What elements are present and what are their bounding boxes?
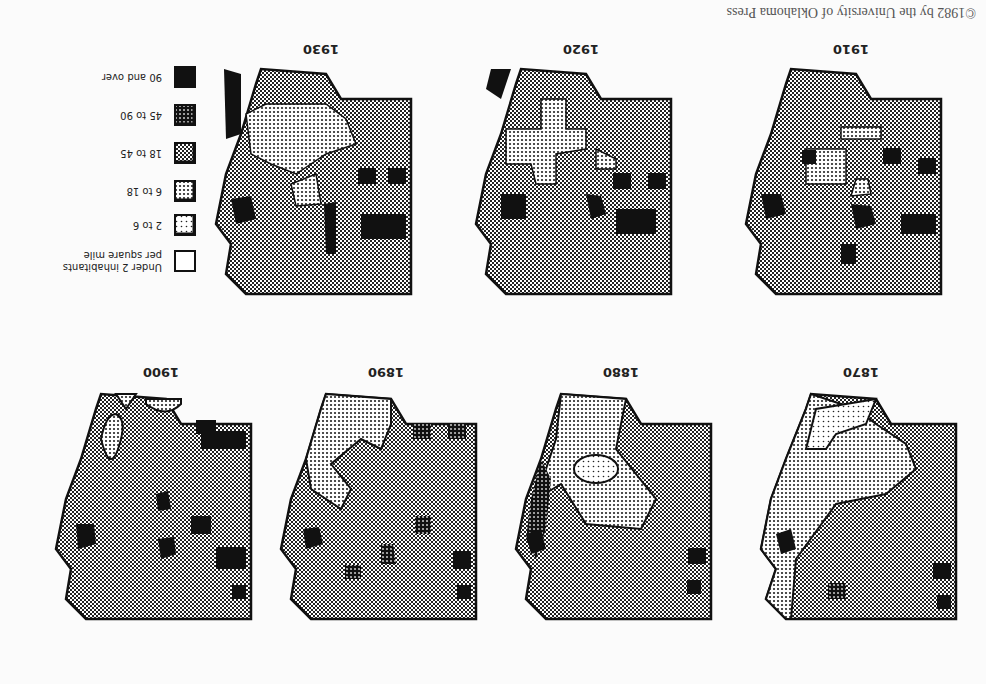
copyright-credit: ©1982 by the University of Oklahoma Pres… bbox=[727, 4, 976, 20]
map-year-label: 1870 bbox=[746, 365, 976, 380]
map-1890 bbox=[271, 389, 501, 639]
legend-swatch-light bbox=[174, 180, 196, 202]
legend-label-line2: per square mile bbox=[84, 250, 163, 261]
legend-swatch-solid bbox=[174, 66, 196, 88]
legend-swatch-dense bbox=[174, 104, 196, 126]
figure-page: 1870 1880 1890 bbox=[0, 0, 986, 684]
legend-swatch-empty bbox=[174, 250, 196, 272]
legend-item-under-2: Under 2 inhabitantsper square mile bbox=[63, 248, 196, 274]
legend-item-90-and-over: 90 and over bbox=[102, 64, 196, 90]
map-year-label: 1930 bbox=[206, 42, 436, 57]
legend-label: 45 to 90 bbox=[120, 109, 162, 121]
legend-swatch-medium bbox=[174, 142, 196, 164]
legend-label: 2 to 6 bbox=[133, 219, 162, 231]
map-1870 bbox=[746, 389, 976, 639]
map-1900 bbox=[46, 389, 276, 639]
legend-label: 18 to 45 bbox=[120, 147, 162, 159]
map-year-label: 1880 bbox=[506, 365, 736, 380]
legend-label: 6 to 18 bbox=[127, 185, 162, 197]
map-1910 bbox=[736, 64, 966, 314]
map-1930 bbox=[206, 64, 436, 314]
map-year-label: 1920 bbox=[466, 42, 696, 57]
map-1920 bbox=[466, 64, 696, 314]
legend-label: 90 and over bbox=[102, 71, 162, 83]
legend-item-6-to-18: 6 to 18 bbox=[127, 178, 196, 204]
legend-item-2-to-6: 2 to 6 bbox=[133, 212, 196, 238]
legend-item-45-to-90: 45 to 90 bbox=[120, 102, 196, 128]
legend-item-18-to-45: 18 to 45 bbox=[120, 140, 196, 166]
legend-swatch-sparse bbox=[174, 214, 196, 236]
map-year-label: 1900 bbox=[46, 365, 276, 380]
map-1880 bbox=[506, 389, 736, 639]
map-year-label: 1890 bbox=[271, 365, 501, 380]
map-year-label: 1910 bbox=[736, 42, 966, 57]
legend-label: Under 2 inhabitants bbox=[63, 262, 162, 273]
